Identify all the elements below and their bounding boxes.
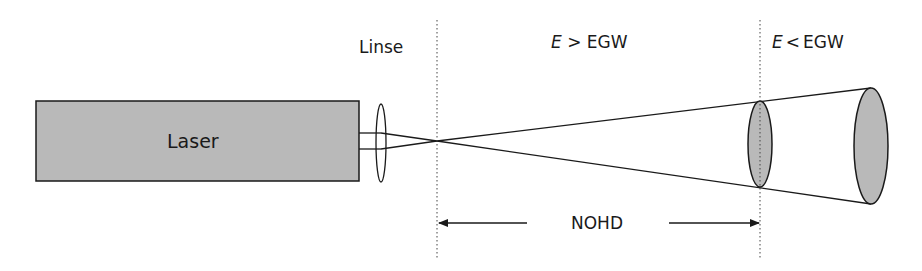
region-label-above-limit: E > EGW (551, 34, 628, 51)
region-label-below-limit: E<EGW (772, 34, 844, 51)
irradiance-variable: E (551, 32, 562, 52)
limit-value: EGW (803, 32, 844, 52)
beam-lower-diverging (437, 141, 871, 204)
beam-upper-diverging (437, 88, 871, 141)
limit-value: EGW (587, 32, 628, 52)
lens-label: Linse (359, 39, 403, 56)
beam-lower-converging (381, 141, 437, 149)
irradiance-variable: E (772, 32, 783, 52)
comparison-operator: < (786, 32, 800, 52)
comparison-operator: > (567, 32, 581, 52)
nohd-label: NOHD (571, 215, 623, 232)
laser-label: Laser (167, 132, 219, 151)
beam-upper-converging (381, 133, 437, 141)
beam-cross-section-far (854, 88, 888, 204)
lens-shape (376, 104, 386, 182)
